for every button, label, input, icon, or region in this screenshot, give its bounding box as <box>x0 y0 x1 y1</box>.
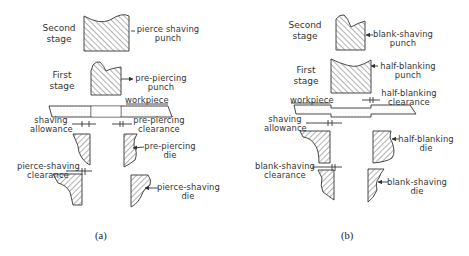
half-blanking-die-right <box>373 131 394 163</box>
stage-text: stage <box>286 76 326 87</box>
label-line: clearance <box>380 98 438 107</box>
label-line: die <box>144 151 196 160</box>
stage-text: Second <box>283 20 327 31</box>
blank-shaving-clearance-label: blank-shaving clearance <box>255 162 315 179</box>
stage-text: First <box>286 65 326 76</box>
pierce-shaving-die-label: pierce-shaving die <box>157 183 219 200</box>
blank-shaving-die-right <box>368 169 384 202</box>
label-line: punch <box>135 83 187 92</box>
workpiece-b <box>294 105 416 117</box>
pre-piercing-punch <box>91 62 121 95</box>
shaving-allowance-label-a: shaving allowance <box>30 116 72 133</box>
pre-piercing-clearance-label: pre-piercing clearance <box>133 116 185 133</box>
label-line: punch <box>136 34 200 43</box>
second-stage-label-a: Second stage <box>38 23 80 45</box>
workpiece-label-b: workpiece <box>290 96 330 105</box>
blank-shaving-punch-label: blank-shaving punch <box>373 30 433 47</box>
pierce-shaving-clearance-label: pierce-shaving clearance <box>17 162 79 179</box>
half-blanking-punch-label: half-blanking punch <box>378 62 438 79</box>
pierce-shaving-die-right <box>131 175 151 207</box>
first-stage-label-a: First stage <box>42 70 82 92</box>
label-line: die <box>157 192 219 201</box>
workpiece-label-a: workpiece <box>125 96 165 105</box>
stage-text: Second <box>38 23 80 34</box>
pierce-shaving-punch-label: pierce shaving punch <box>136 25 200 42</box>
pre-piercing-die-label: pre-piercing die <box>144 142 196 159</box>
caption-b: (b) <box>341 230 353 241</box>
half-blanking-die-label: half-blanking die <box>398 135 454 152</box>
label-line: die <box>387 187 447 196</box>
label-line: die <box>398 144 454 153</box>
blank-shaving-die-label: blank-shaving die <box>387 178 447 195</box>
pierce-shaving-punch <box>84 15 129 51</box>
half-blanking-clearance-label: half-blanking clearance <box>380 89 438 106</box>
label-line: clearance <box>133 125 185 134</box>
blank-shaving-die-left <box>318 170 334 200</box>
label-line: allowance <box>30 125 72 134</box>
stage-text: First <box>42 70 82 81</box>
first-stage-label-b: First stage <box>286 65 326 87</box>
caption-a: (a) <box>95 230 107 241</box>
label-line: clearance <box>17 171 79 180</box>
stage-text: stage <box>38 34 80 45</box>
blank-shaving-punch <box>336 15 365 50</box>
half-blanking-punch <box>331 59 371 93</box>
label-line: punch <box>373 39 433 48</box>
label-line: punch <box>378 71 438 80</box>
shaving-allowance-label-b: shaving allowance <box>264 115 306 132</box>
label-line: clearance <box>255 171 315 180</box>
stage-text: stage <box>283 31 327 42</box>
label-line: allowance <box>264 124 306 133</box>
half-blanking-die-left <box>300 131 330 163</box>
pre-piercing-punch-label: pre-piercing punch <box>135 74 187 91</box>
second-stage-label-b: Second stage <box>283 20 327 42</box>
stage-text: stage <box>42 81 82 92</box>
pre-piercing-die-right <box>124 134 137 167</box>
